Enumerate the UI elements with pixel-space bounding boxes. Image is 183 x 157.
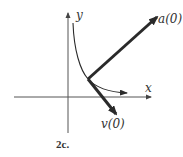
figure-2c: y x a(0) v(0) 2c. [0, 0, 183, 157]
acceleration-label: a(0) [158, 13, 182, 25]
trajectory-curve [73, 23, 127, 93]
acceleration-vector [88, 17, 157, 79]
diagram-canvas [0, 0, 183, 157]
x-axis-label: x [145, 82, 152, 94]
figure-caption: 2c. [56, 139, 69, 150]
velocity-label: v(0) [101, 118, 125, 130]
y-axis-label: y [76, 9, 83, 21]
